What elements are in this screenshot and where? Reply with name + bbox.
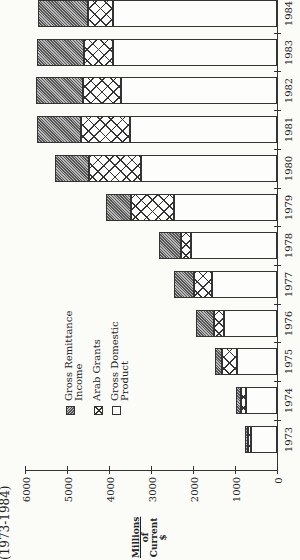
value-tick-label: 0: [273, 477, 284, 483]
remittance-segment: [215, 348, 222, 375]
gdp-segment: [251, 426, 277, 453]
remittance-segment: [38, 0, 88, 27]
value-tick-label: 5000: [63, 477, 74, 502]
value-tick: [277, 466, 278, 474]
value-tick: [25, 466, 26, 474]
stacked-bar-chart: (1973-1984) 1973197419751976197719781979…: [0, 0, 300, 560]
arab-grants-segment: [214, 310, 224, 337]
gdp-segment: [224, 310, 277, 337]
gdp-segment: [246, 387, 277, 414]
value-tick-label: 2000: [189, 477, 200, 502]
legend-item-arab: Arab Grants: [92, 339, 103, 415]
category-label: 1976: [283, 310, 294, 335]
gdp-segment: [174, 194, 277, 221]
category-label: 1975: [283, 348, 294, 373]
arab-grants-segment: [88, 0, 113, 27]
gdp-segment: [141, 155, 277, 182]
gdp-segment: [113, 0, 277, 27]
remittance-segment: [159, 232, 181, 259]
value-tick: [67, 466, 68, 474]
legend-label: Gross Remittance Income: [64, 311, 84, 401]
category-label: 1979: [283, 194, 294, 219]
remittance-segment: [36, 77, 83, 104]
legend-item-gdp: Gross Domestic Product: [110, 321, 130, 415]
chart-title-fragment: (1973-1984): [0, 486, 12, 560]
remittance-segment: [245, 426, 248, 453]
remittance-segment: [37, 116, 81, 143]
category-axis-line: [277, 0, 278, 472]
category-label: 1984: [283, 0, 294, 25]
category-label: 1981: [283, 116, 294, 141]
category-label: 1973: [283, 426, 294, 451]
legend-item-remit: Gross Remittance Income: [64, 311, 84, 415]
legend-swatch-icon: [112, 406, 121, 415]
remittance-segment: [236, 387, 241, 414]
remittance-segment: [37, 39, 84, 66]
category-label: 1978: [283, 232, 294, 257]
value-tick: [151, 466, 152, 474]
gdp-segment: [237, 348, 277, 375]
remittance-segment: [174, 271, 194, 298]
value-tick: [235, 466, 236, 474]
gdp-segment: [130, 116, 277, 143]
category-label: 1974: [283, 387, 294, 412]
category-label: 1982: [283, 77, 294, 102]
value-tick-label: 1000: [231, 477, 242, 502]
arab-grants-segment: [181, 232, 191, 259]
arab-grants-segment: [81, 116, 130, 143]
arab-grants-segment: [194, 271, 212, 298]
arab-grants-segment: [248, 426, 251, 453]
remittance-segment: [196, 310, 214, 337]
legend-swatch-icon: [94, 406, 103, 415]
arab-grants-segment: [83, 77, 121, 104]
remittance-segment: [106, 194, 131, 221]
value-tick-label: 3000: [147, 477, 158, 502]
value-tick-label: 4000: [105, 477, 116, 502]
value-tick: [193, 466, 194, 474]
arab-grants-segment: [241, 387, 246, 414]
arab-grants-segment: [131, 194, 174, 221]
value-tick: [109, 466, 110, 474]
legend-swatch-icon: [66, 406, 75, 415]
y-axis-label-line: $: [159, 517, 168, 558]
category-label: 1983: [283, 39, 294, 64]
legend-label: Gross Domestic Product: [110, 321, 130, 401]
remittance-segment: [55, 155, 89, 182]
gdp-segment: [191, 232, 277, 259]
category-label: 1980: [283, 155, 294, 180]
gdp-segment: [121, 77, 277, 104]
arab-grants-segment: [84, 39, 113, 66]
arab-grants-segment: [89, 155, 141, 182]
arab-grants-segment: [222, 348, 237, 375]
legend-label: Arab Grants: [92, 339, 102, 401]
y-axis-label: MillionsofCurrent$: [132, 517, 168, 558]
gdp-segment: [212, 271, 277, 298]
gdp-segment: [113, 39, 277, 66]
value-tick-label: 6000: [21, 477, 32, 502]
category-label: 1977: [283, 271, 294, 296]
